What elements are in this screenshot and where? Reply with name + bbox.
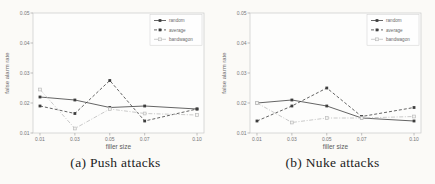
random-marker (73, 99, 76, 102)
x-tick-label: 0.01 (35, 136, 45, 142)
legend-marker-bandwagon (376, 38, 379, 41)
x-tick-label: 0.05 (105, 136, 115, 142)
legend-marker-random (376, 19, 379, 22)
legend-label-bandwagon: bandwagon (169, 37, 193, 42)
bandwagon-marker (39, 88, 42, 91)
average-marker (39, 105, 42, 108)
x-tick-label: 0.03 (287, 136, 297, 142)
x-tick-label: 0.05 (322, 136, 332, 142)
bandwagon-marker (196, 114, 199, 117)
legend-label-random: random (169, 18, 185, 23)
y-tick-label: 0.04 (20, 40, 30, 46)
y-tick-label: 0.03 (237, 70, 247, 76)
y-tick-label: 0.03 (20, 70, 30, 76)
x-tick-label: 0.03 (70, 136, 80, 142)
y-tick-label: 0.05 (237, 10, 247, 16)
average-marker (143, 120, 146, 123)
figure: 0.010.020.030.040.050.010.030.050.070.10… (0, 0, 435, 184)
average-marker (413, 106, 416, 109)
nuke-attacks-caption: (b) Nuke attacks (271, 155, 379, 171)
legend-marker-bandwagon (159, 38, 162, 41)
legend: randomaveragebandwagon (150, 15, 202, 46)
bandwagon-marker (290, 121, 293, 124)
bandwagon-marker (108, 108, 111, 111)
y-tick-label: 0.01 (20, 130, 30, 136)
legend-marker-average (159, 29, 162, 32)
x-axis-label: filler size (323, 143, 349, 150)
x-axis: 0.010.030.050.070.10 (35, 133, 202, 142)
bandwagon-marker (413, 115, 416, 118)
y-tick-label: 0.02 (20, 100, 30, 106)
legend-label-average: average (169, 28, 186, 33)
x-tick-label: 0.10 (409, 136, 419, 142)
x-axis: 0.010.030.050.070.10 (252, 133, 419, 142)
y-tick-label: 0.05 (20, 10, 30, 16)
bandwagon-marker (325, 117, 328, 120)
y-axis-label: false alarm rate (4, 52, 10, 94)
average-marker (196, 108, 199, 111)
legend: randomaveragebandwagon (367, 15, 419, 46)
x-tick-label: 0.10 (192, 136, 202, 142)
random-marker (143, 105, 146, 108)
bandwagon-marker (360, 117, 363, 120)
push-attacks-caption: (a) Push attacks (56, 155, 160, 171)
y-tick-label: 0.04 (237, 40, 247, 46)
average-marker (73, 112, 76, 115)
legend-label-random: random (386, 18, 402, 23)
random-marker (39, 96, 42, 99)
x-tick-label: 0.01 (252, 136, 262, 142)
average-marker (108, 79, 111, 82)
random-marker (290, 99, 293, 102)
y-axis: 0.010.020.030.040.05 (237, 10, 250, 136)
x-tick-label: 0.07 (357, 136, 367, 142)
nuke-attacks-plot: 0.010.020.030.040.050.010.030.050.070.10… (217, 1, 434, 153)
legend-label-average: average (386, 28, 403, 33)
y-axis: 0.010.020.030.040.05 (20, 10, 33, 136)
average-marker (290, 105, 293, 108)
bandwagon-marker (256, 102, 259, 105)
legend-marker-random (159, 19, 162, 22)
chart-nuke-attacks: 0.010.020.030.040.050.010.030.050.070.10… (217, 1, 434, 184)
push-attacks-plot: 0.010.020.030.040.050.010.030.050.070.10… (0, 1, 217, 153)
random-marker (325, 105, 328, 108)
y-tick-label: 0.01 (237, 130, 247, 136)
y-axis-label: false alarm rate (221, 52, 227, 94)
average-marker (325, 87, 328, 90)
bandwagon-marker (73, 127, 76, 130)
y-tick-label: 0.02 (237, 100, 247, 106)
chart-push-attacks: 0.010.020.030.040.050.010.030.050.070.10… (0, 1, 217, 184)
x-axis-label: filler size (106, 143, 132, 150)
average-marker (256, 120, 259, 123)
legend-marker-average (376, 29, 379, 32)
legend-label-bandwagon: bandwagon (386, 37, 410, 42)
x-tick-label: 0.07 (140, 136, 150, 142)
bandwagon-marker (143, 112, 146, 115)
random-marker (413, 120, 416, 123)
